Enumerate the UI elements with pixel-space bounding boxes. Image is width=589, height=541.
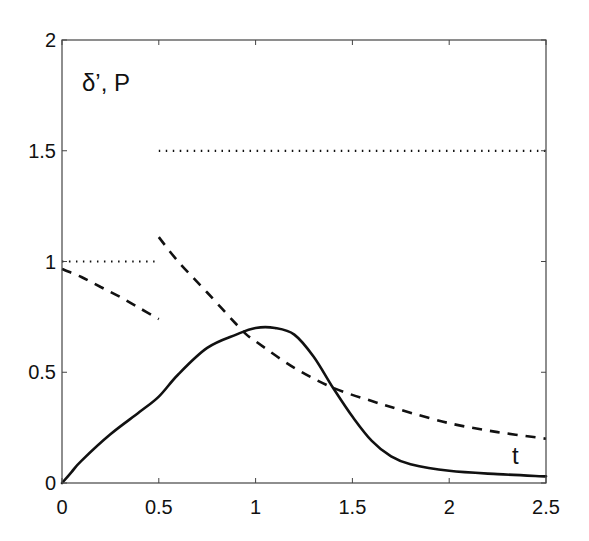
- x-tick-label: 1: [250, 496, 261, 518]
- line-chart: 00.511.522.5 00.511.52 δ’, P t: [0, 0, 589, 541]
- series-solid-line: [62, 327, 546, 483]
- series-layer: [62, 151, 546, 483]
- y-tick-label: 2: [45, 29, 56, 51]
- x-axis-tick-labels: 00.511.522.5: [56, 496, 559, 518]
- x-tick-label: 0: [56, 496, 67, 518]
- x-tick-label: 0.5: [145, 496, 173, 518]
- y-axis-tick-labels: 00.511.52: [28, 29, 56, 494]
- series-dashed-line: [62, 269, 159, 319]
- y-tick-label: 1.5: [28, 140, 56, 162]
- x-tick-label: 2.5: [532, 496, 560, 518]
- x-axis-annotation: t: [512, 442, 519, 469]
- y-tick-label: 1: [45, 251, 56, 273]
- y-tick-label: 0: [45, 472, 56, 494]
- y-axis-annotation: δ’, P: [82, 69, 130, 96]
- series-dashed-line: [159, 237, 546, 439]
- x-tick-label: 1.5: [338, 496, 366, 518]
- x-tick-label: 2: [444, 496, 455, 518]
- y-tick-label: 0.5: [28, 361, 56, 383]
